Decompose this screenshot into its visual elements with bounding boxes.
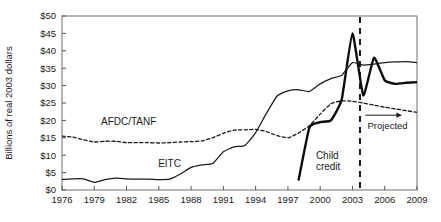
series-label-eitc: EITC (158, 158, 181, 169)
x-axis-tick-label: 2000 (310, 194, 331, 205)
y-axis-tick-label: $10 (40, 150, 56, 161)
y-axis-tick-label: $5 (45, 167, 56, 178)
x-axis-tick-label: 2003 (342, 194, 363, 205)
y-axis-tick-label: $35 (40, 63, 56, 74)
series-label-child-credit: Childcredit (316, 150, 341, 173)
x-axis-tick-label: 1988 (181, 194, 202, 205)
x-axis-tick-label: 1982 (116, 194, 137, 205)
line-chart: $0$5$10$15$20$25$30$35$40$45$50197619791… (0, 0, 441, 222)
x-axis-tick-label: 2009 (406, 194, 427, 205)
y-axis-tick-label: $30 (40, 80, 56, 91)
y-axis-tick-label: $15 (40, 132, 56, 143)
y-axis-tick-label: $45 (40, 28, 56, 39)
x-axis-tick-label: 1976 (51, 194, 72, 205)
x-axis-tick-label: 1979 (84, 194, 105, 205)
x-axis-tick-label: 1997 (277, 194, 298, 205)
y-axis-title: Billions of real 2003 dollars (3, 46, 14, 160)
y-axis-tick-label: $40 (40, 45, 56, 56)
y-axis-tick-label: $25 (40, 97, 56, 108)
x-axis-tick-label: 1994 (245, 194, 266, 205)
x-axis-tick-label: 1985 (148, 194, 169, 205)
x-axis-tick-label: 1991 (213, 194, 234, 205)
y-axis-tick-label: $20 (40, 115, 56, 126)
chart-container: $0$5$10$15$20$25$30$35$40$45$50197619791… (0, 0, 441, 222)
projected-label: Projected (368, 120, 408, 131)
x-axis-tick-label: 2006 (374, 194, 395, 205)
y-axis-tick-label: $50 (40, 10, 56, 21)
series-label-afdc-tanf: AFDC/TANF (101, 116, 156, 127)
